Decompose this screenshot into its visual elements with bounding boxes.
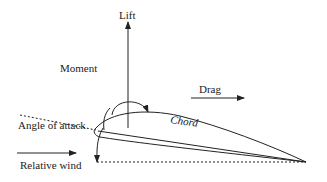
relative-wind-label: Relative wind xyxy=(20,159,82,171)
angle-of-attack-label: Angle of attack xyxy=(18,119,86,131)
airfoil-lower-surface xyxy=(100,137,306,162)
angle-of-attack-arc xyxy=(97,128,103,162)
lift-label: Lift xyxy=(119,9,136,21)
moment-label: Moment xyxy=(60,62,97,74)
drag-label: Drag xyxy=(199,83,221,95)
chord-label: Chord xyxy=(170,113,200,129)
chord-line xyxy=(98,131,306,162)
airfoil-diagram: Lift Moment Drag Chord Angle of attack R… xyxy=(0,0,327,182)
